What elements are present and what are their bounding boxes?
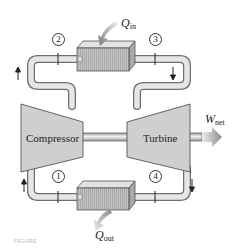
work-net-label: Wnet — [205, 112, 225, 127]
heat-in-label: Qin — [121, 16, 136, 31]
work-net-subscript: net — [215, 118, 225, 127]
heat-in-subscript: in — [130, 22, 136, 31]
flow-down-arrow-icon — [171, 75, 176, 80]
flow-up-arrow-icon — [16, 67, 21, 72]
work-net-symbol: W — [205, 112, 215, 126]
heat-rejection-exchanger — [77, 181, 135, 210]
heat-out-subscript: out — [104, 234, 114, 243]
flow-up-arrow-icon — [22, 179, 27, 184]
work-output-arrow-icon — [202, 127, 222, 147]
state-3-marker: 3 — [149, 33, 162, 46]
state-1-marker: 1 — [52, 170, 65, 183]
cycle-diagram — [0, 0, 237, 250]
heat-addition-exchanger — [77, 41, 135, 71]
heat-in-symbol: Q — [121, 16, 130, 30]
heat-out-label: Qout — [95, 228, 114, 243]
heat-out-symbol: Q — [95, 228, 104, 242]
figure-caption: FIGURE — [14, 238, 37, 244]
state-2-marker: 2 — [52, 33, 65, 46]
turbine-label: Turbine — [143, 132, 177, 144]
state-4-marker: 4 — [149, 170, 162, 183]
compressor-label: Compressor — [26, 132, 79, 144]
